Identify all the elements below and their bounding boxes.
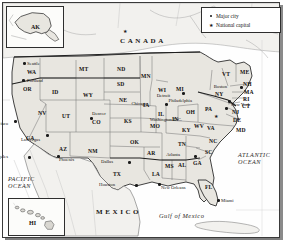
city-marker-las-vegas [46,134,49,137]
city-marker-atlanta [194,155,197,158]
state-label-az: AZ [59,147,67,153]
water-label-pacific-line2: OCEAN [8,183,31,189]
cuba [195,221,259,233]
state-label-al: AL [178,163,186,169]
city-marker-chicago [165,103,168,106]
state-label-mo: MO [150,124,160,130]
hawaii-inset-shape [9,199,64,235]
city-marker-philadelphia [225,107,228,110]
major-city-icon [206,13,216,18]
state-label-sc: SC [205,150,212,156]
city-label-dallas: Dallas [101,160,113,165]
city-marker-phoenix [57,155,60,158]
state-label-la: LA [152,172,160,178]
state-label-tx: TX [113,172,121,178]
alaska-inset: AK [6,6,64,48]
state-label-ks: KS [124,119,132,125]
state-label-nd: ND [117,67,125,73]
water-label-atlantic-line2: OCEAN [238,159,261,165]
city-label-portland: Portland [27,79,43,84]
inset-label-hi: HI [29,220,36,226]
city-marker-new-york [228,100,231,103]
state-label-mn: MN [141,74,151,80]
country-label-canada: CANADA [120,38,166,45]
country-label-mexico: MEXICO [96,209,141,216]
city-label-philadelphia: Philadelphia [169,99,192,104]
city-marker-san-francisco [14,120,17,123]
state-label-md: MD [236,128,246,134]
state-label-co: CO [92,120,101,126]
city-marker-new-orleans [158,183,161,186]
city-label-phoenix: Phoenix [59,158,74,163]
national-capital-icon: ★ [206,22,216,28]
state-label-wa: WA [27,70,36,76]
city-label-san-francisco: San Francisco [0,122,8,127]
city-label-miami: Miami [221,199,234,204]
us-reference-map: AK HI Major city ★ National capital [0,0,284,244]
state-label-ga: GA [193,161,202,167]
city-label-seattle: Seattle [27,62,40,67]
state-label-nv: NV [38,111,46,117]
city-label-atlanta: Atlanta [166,153,180,158]
state-label-de: DE [233,118,241,124]
state-label-ma: MA [244,90,254,96]
city-marker-boston [240,86,243,89]
city-marker-seattle [23,62,26,65]
city-label-new-york: New York [231,103,250,108]
city-marker-portland [22,79,25,82]
legend-item-national-capital: ★ National capital [206,20,276,29]
state-label-nh: NH [243,82,252,88]
state-label-mt: MT [79,67,88,73]
state-label-nj: NJ [232,110,239,116]
state-label-wy: WY [83,93,93,99]
state-label-nc: NC [209,139,217,145]
map-legend: Major city ★ National capital [201,7,281,33]
city-label-houston: Houston [99,183,115,188]
state-label-me: ME [240,70,249,76]
water-label-gulf-of-mexico: Gulf of Mexico [159,213,204,219]
state-label-nm: NM [88,149,98,155]
city-label-new-orleans: New Orleans [161,186,186,191]
state-label-ny: NY [215,92,223,98]
inset-label-ak: AK [31,24,40,30]
state-label-ms: MS [165,164,174,170]
state-label-wv: WV [194,124,204,130]
state-label-tn: TN [178,142,186,148]
state-label-or: OR [23,87,32,93]
state-label-ut: UT [62,114,70,120]
city-label-boston: Boston [214,85,227,90]
hawaii-inset: HI [8,198,65,236]
city-marker-detroit [182,92,185,95]
city-label-los-angeles: Los Angeles [0,155,8,160]
city-marker-miami [217,199,220,202]
city-marker-denver [90,117,93,120]
city-label-las-vegas: Las Vegas [21,138,40,143]
state-label-oh: OH [186,110,195,116]
city-label-washington-d-c: Washington D.C. [150,118,182,123]
state-label-ok: OK [130,140,139,146]
state-label-vt: VT [222,72,230,78]
state-label-sd: SD [117,82,124,88]
state-label-id: ID [52,90,58,96]
city-label-chicago: Chicago [131,102,147,107]
state-label-va: VA [207,126,215,132]
legend-label-major-city: Major city [216,13,239,19]
capital-marker-ottawa: ★ [123,29,127,34]
legend-item-major-city: Major city [206,11,276,20]
state-label-ar: AR [147,151,155,157]
city-marker-dallas [128,161,131,164]
city-label-denver: Denver [92,112,106,117]
city-marker-houston [135,184,138,187]
city-marker-los-angeles [28,156,31,159]
state-label-ky: KY [182,128,191,134]
legend-label-national-capital: National capital [216,22,250,28]
state-label-fl: FL [205,185,212,191]
state-label-ne: NE [119,98,127,104]
state-label-pa: PA [205,107,212,113]
capital-marker-washington-d-c: ★ [214,114,218,119]
